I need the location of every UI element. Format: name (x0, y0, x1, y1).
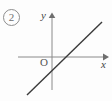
y-axis-label: y (41, 10, 46, 21)
plotted-line (27, 22, 102, 95)
origin-label: O (40, 57, 48, 68)
y-axis-arrow-icon (49, 13, 56, 19)
item-number-badge: 2 (3, 9, 20, 26)
figure-container: 2 y x O (0, 0, 112, 101)
x-axis-label: x (101, 59, 106, 70)
